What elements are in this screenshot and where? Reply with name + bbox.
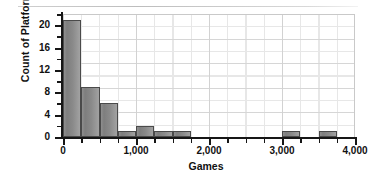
- x-tick-label: 3,000: [252, 145, 312, 156]
- x-tick: [319, 139, 321, 143]
- x-tick: [227, 139, 229, 143]
- x-tick: [154, 139, 156, 143]
- x-tick: [81, 139, 83, 143]
- x-tick-label: 1,000: [106, 145, 166, 156]
- y-tick: [57, 126, 61, 128]
- x-tick: [191, 139, 193, 143]
- y-tick: [55, 48, 61, 50]
- x-axis-title: Games: [0, 160, 372, 172]
- x-tick: [100, 139, 102, 143]
- y-tick-label: 20: [24, 19, 50, 30]
- bar: [136, 126, 154, 137]
- y-tick: [55, 115, 61, 117]
- y-tick: [55, 92, 61, 94]
- y-tick-label: 4: [24, 109, 50, 120]
- x-tick: [173, 139, 175, 143]
- x-tick-label: 0: [33, 145, 93, 156]
- y-tick: [57, 81, 61, 83]
- bar: [63, 20, 81, 137]
- y-tick: [57, 14, 61, 16]
- x-tick: [246, 139, 248, 143]
- bar: [81, 87, 99, 137]
- x-tick-label: 4,000: [325, 145, 372, 156]
- bar: [100, 103, 118, 137]
- y-tick: [57, 59, 61, 61]
- x-tick: [118, 139, 120, 143]
- x-tick: [337, 139, 339, 143]
- y-tick: [57, 36, 61, 38]
- y-tick-label: 12: [24, 64, 50, 75]
- y-tick: [55, 137, 61, 139]
- y-tick: [55, 70, 61, 72]
- y-tick-label: 8: [24, 86, 50, 97]
- x-tick: [300, 139, 302, 143]
- y-tick-label: 16: [24, 42, 50, 53]
- page-rule: [18, 6, 358, 7]
- x-tick: [264, 139, 266, 143]
- x-tick-label: 2,000: [179, 145, 239, 156]
- y-tick: [55, 25, 61, 27]
- histogram-figure: Count of Platforms Games 048121620 01,00…: [0, 0, 372, 183]
- y-axis-line: [61, 12, 63, 139]
- bar-series: [63, 14, 355, 137]
- y-tick-label: 0: [24, 131, 50, 142]
- y-tick: [57, 103, 61, 105]
